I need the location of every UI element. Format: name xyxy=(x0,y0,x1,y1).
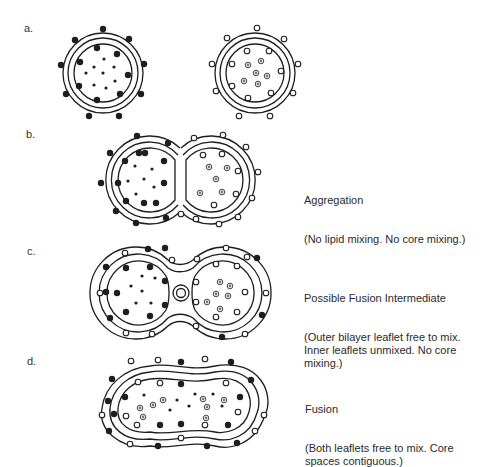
white-lipid-marker xyxy=(223,380,229,386)
white-lipid-marker xyxy=(245,95,251,101)
white-lipid-marker xyxy=(202,356,208,362)
caption-fusion: Fusion (Both leaflets free to mix. Core … xyxy=(305,377,454,467)
black-lipid-marker xyxy=(103,264,109,270)
white-lipid-marker xyxy=(216,221,222,227)
white-lipid-marker xyxy=(243,144,249,150)
white-lipid-marker xyxy=(169,257,175,263)
white-lipid-marker xyxy=(157,380,163,386)
black-lipid-marker xyxy=(107,150,113,156)
black-lipid-marker xyxy=(136,150,142,156)
panel-label-d: d. xyxy=(27,355,36,367)
black-lipid-marker xyxy=(165,140,171,146)
black-lipid-marker xyxy=(178,381,184,387)
black-lipid-marker xyxy=(58,62,64,68)
panel-d-fusion xyxy=(99,356,268,449)
black-lipid-marker xyxy=(161,180,167,186)
black-lipid-marker xyxy=(219,334,225,340)
black-lipid-marker xyxy=(178,421,184,427)
white-lipid-marker xyxy=(263,290,269,296)
white-lipid-marker xyxy=(211,202,217,208)
core-dot-marker xyxy=(101,71,104,74)
white-lipid-marker xyxy=(229,83,235,89)
black-lipid-marker xyxy=(123,309,129,315)
white-lipid-marker xyxy=(128,358,134,364)
white-lipid-marker xyxy=(234,263,240,269)
black-lipid-marker xyxy=(105,398,111,404)
black-lipid-marker xyxy=(106,428,112,434)
white-lipid-marker xyxy=(123,330,129,336)
figure-canvas: a. b. c. d. Aggregation (No lipid mixing… xyxy=(0,0,497,467)
black-lipid-marker xyxy=(142,150,148,156)
white-lipid-marker xyxy=(213,88,219,94)
caption-title: Possible Fusion Intermediate xyxy=(304,292,461,305)
white-lipid-marker xyxy=(224,35,230,41)
black-lipid-marker xyxy=(103,289,109,295)
white-lipid-marker xyxy=(261,412,267,418)
white-lipid-marker xyxy=(249,195,255,201)
black-lipid-marker xyxy=(133,220,139,226)
white-lipid-marker xyxy=(219,151,225,157)
white-lipid-marker xyxy=(193,279,199,285)
black-lipid-marker xyxy=(162,245,168,251)
white-lipid-marker xyxy=(213,314,219,320)
core-dot-marker xyxy=(113,79,116,82)
white-lipid-marker xyxy=(209,61,215,67)
panel-label-a: a. xyxy=(24,22,33,34)
black-lipid-marker xyxy=(228,359,234,365)
black-lipid-marker xyxy=(76,83,82,89)
black-lipid-marker xyxy=(107,315,113,321)
core-dot-marker xyxy=(142,177,145,180)
white-lipid-marker xyxy=(278,68,284,74)
black-lipid-marker xyxy=(237,394,243,400)
panel-a-vesicle-black xyxy=(58,26,147,119)
black-lipid-marker xyxy=(141,61,147,67)
black-lipid-marker xyxy=(77,59,83,65)
black-lipid-marker xyxy=(114,51,120,57)
black-lipid-marker xyxy=(259,312,265,318)
white-lipid-marker xyxy=(220,132,226,138)
white-lipid-marker xyxy=(223,245,229,251)
black-lipid-marker xyxy=(113,208,119,214)
black-lipid-marker xyxy=(72,37,78,43)
black-lipid-marker xyxy=(141,200,147,206)
black-lipid-marker xyxy=(234,440,240,446)
black-lipid-marker xyxy=(114,290,120,296)
white-lipid-marker xyxy=(191,135,197,141)
core-dot-marker xyxy=(126,179,129,182)
white-lipid-marker xyxy=(122,250,128,256)
white-lipid-marker xyxy=(178,435,184,441)
panel-b-aggregation xyxy=(98,132,261,227)
core-dot-marker xyxy=(133,164,136,167)
black-lipid-marker xyxy=(225,422,231,428)
core-dot-marker xyxy=(211,392,214,395)
black-lipid-marker xyxy=(157,422,163,428)
core-dot-marker xyxy=(140,274,143,277)
core-dot-marker xyxy=(187,404,190,407)
white-lipid-marker xyxy=(193,299,199,305)
white-lipid-marker xyxy=(202,422,208,428)
core-dot-marker xyxy=(149,301,152,304)
white-lipid-marker xyxy=(234,309,240,315)
black-lipid-marker xyxy=(147,313,153,319)
panel-a-vesicle-white xyxy=(209,25,301,119)
white-lipid-marker xyxy=(235,409,241,415)
core-dot-marker xyxy=(92,65,95,68)
black-lipid-marker xyxy=(123,198,129,204)
black-lipid-marker xyxy=(254,255,260,261)
black-lipid-marker xyxy=(122,158,128,164)
panel-c-fusion-intermediate xyxy=(90,245,271,340)
white-lipid-marker xyxy=(155,357,161,363)
white-lipid-marker xyxy=(200,152,206,158)
core-dot-marker xyxy=(112,65,115,68)
panel-label-b: b. xyxy=(26,128,35,140)
white-lipid-marker xyxy=(123,413,129,419)
white-lipid-marker xyxy=(281,36,287,42)
core-dot-marker xyxy=(134,192,137,195)
black-lipid-marker xyxy=(86,113,92,119)
white-lipid-marker xyxy=(254,25,260,31)
black-lipid-marker xyxy=(147,264,153,270)
black-lipid-marker xyxy=(122,394,128,400)
black-lipid-marker xyxy=(162,278,168,284)
black-lipid-marker xyxy=(153,200,159,206)
core-dot-marker xyxy=(168,408,171,411)
